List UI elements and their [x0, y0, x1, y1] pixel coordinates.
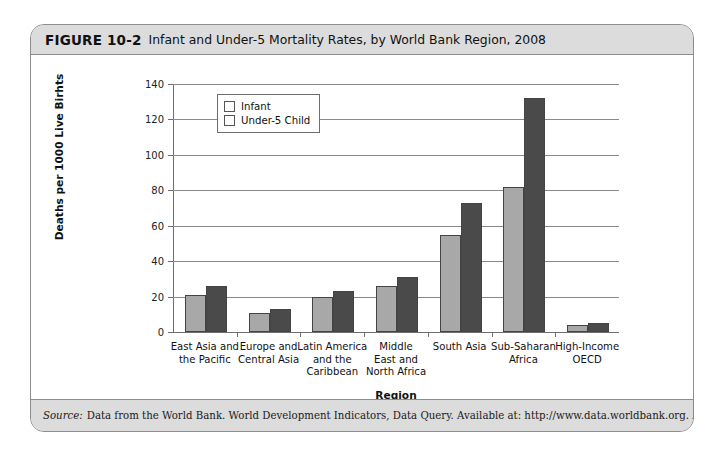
y-tick-label: 60 — [151, 220, 164, 231]
chart-area: Deaths per 1000 Live Birhts 020406080100… — [31, 55, 693, 399]
x-tick-mark — [300, 332, 301, 337]
source-label: Source: — [43, 410, 83, 421]
bar-group — [567, 84, 609, 332]
bar-under5 — [461, 203, 482, 332]
figure-container: FIGURE 10-2 Infant and Under-5 Mortality… — [30, 24, 694, 432]
bar-infant — [249, 313, 270, 332]
bar-under5 — [524, 98, 545, 332]
y-tick-mark — [168, 190, 173, 191]
legend-label-under5: Under-5 Child — [241, 115, 310, 126]
y-tick-label: 80 — [151, 185, 164, 196]
bar-under5 — [397, 277, 418, 332]
bar-infant — [440, 235, 461, 332]
figure-title: Infant and Under-5 Mortality Rates, by W… — [149, 32, 546, 47]
y-tick-label: 100 — [145, 149, 164, 160]
figure-source-footer: Source: Data from the World Bank. World … — [31, 399, 693, 431]
x-tick-mark — [492, 332, 493, 337]
legend-swatch-infant — [224, 101, 235, 112]
y-tick-mark — [168, 261, 173, 262]
legend-swatch-under5 — [224, 115, 235, 126]
x-tick-mark — [555, 332, 556, 337]
y-axis-title: Deaths per 1000 Live Birhts — [53, 67, 65, 247]
x-axis-line — [173, 332, 619, 333]
bar-infant — [376, 286, 397, 332]
legend-item-under5: Under-5 Child — [224, 113, 310, 127]
bar-under5 — [333, 291, 354, 332]
bar-group — [376, 84, 418, 332]
bar-infant — [185, 295, 206, 332]
legend-label-infant: Infant — [241, 101, 271, 112]
bar-under5 — [270, 309, 291, 332]
x-tick-mark — [428, 332, 429, 337]
y-tick-label: 140 — [145, 79, 164, 90]
figure-number: FIGURE 10-2 — [45, 32, 142, 48]
legend-item-infant: Infant — [224, 99, 310, 113]
bar-group — [503, 84, 545, 332]
y-tick-label: 0 — [158, 327, 164, 338]
plot-area: 020406080100120140 Infant Under-5 Child … — [173, 84, 619, 332]
x-tick-mark — [237, 332, 238, 337]
figure-header: FIGURE 10-2 Infant and Under-5 Mortality… — [31, 25, 693, 55]
bar-under5 — [206, 286, 227, 332]
y-tick-label: 120 — [145, 114, 164, 125]
y-tick-mark — [168, 119, 173, 120]
bar-group — [440, 84, 482, 332]
y-tick-label: 40 — [151, 256, 164, 267]
y-tick-mark — [168, 226, 173, 227]
x-tick-mark — [364, 332, 365, 337]
y-tick-mark — [168, 297, 173, 298]
chart-legend: Infant Under-5 Child — [217, 94, 320, 133]
bar-infant — [312, 297, 333, 332]
y-tick-mark — [168, 84, 173, 85]
y-tick-mark — [168, 155, 173, 156]
bar-infant — [503, 187, 524, 332]
y-tick-label: 20 — [151, 291, 164, 302]
x-category-label: High-IncomeOECD — [547, 341, 627, 366]
source-text: Data from the World Bank. World Developm… — [87, 410, 694, 421]
